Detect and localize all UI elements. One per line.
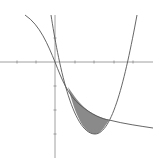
function-plot — [0, 0, 166, 162]
x-axis — [0, 61, 153, 64]
